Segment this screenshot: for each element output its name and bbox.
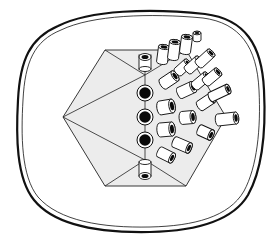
end-on-tubes [137,85,153,148]
tube [215,112,240,127]
tube [201,67,223,88]
tube [167,39,181,61]
tube [156,122,175,137]
tube [179,34,193,55]
diagram-figure [0,0,276,245]
tube [194,48,216,69]
tube-end-on [137,109,153,125]
tube [178,110,196,124]
tube [156,99,177,116]
tube-end-on [137,85,153,101]
tube-end-on [137,132,153,148]
tube [193,31,201,42]
tube [207,84,232,103]
